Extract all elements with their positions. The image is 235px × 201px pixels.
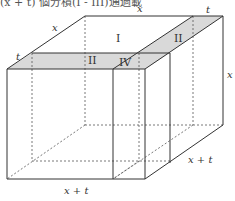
region-II-right: II bbox=[174, 32, 183, 45]
label-bottom-xt: x + t bbox=[64, 185, 89, 196]
label-depth-x: x bbox=[52, 22, 58, 33]
label-top-t: t bbox=[206, 4, 211, 15]
label-height-x: x bbox=[227, 69, 233, 80]
label-top-x: x bbox=[137, 3, 143, 14]
label-right-xt: x + t bbox=[188, 154, 213, 165]
region-IV: IV bbox=[119, 56, 132, 69]
box-diagram: x t x t x x + t x + t I II II IV bbox=[0, 0, 235, 201]
region-II-front: II bbox=[88, 54, 97, 67]
region-I: I bbox=[116, 32, 120, 45]
